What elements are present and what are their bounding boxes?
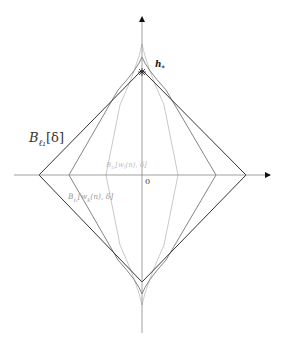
diagram-canvas [0,0,283,347]
h-star-label: h* [155,60,165,71]
middle-shape [69,57,216,294]
outer-diamond-label: Bℓ₁[δ] [29,131,64,148]
inner-shape-label: Bℓ₁[wl(n), δ] [106,162,147,170]
middle-shape-label: Bℓ₁[wk(n), δ] [68,193,113,203]
origin-label: 0 [145,178,150,186]
h-star-marker-icon [138,68,146,76]
